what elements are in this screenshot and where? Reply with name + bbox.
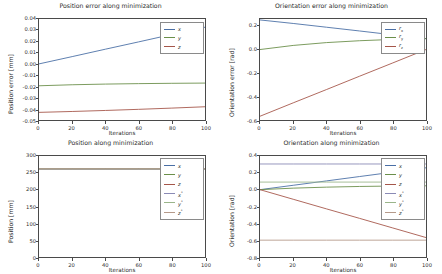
legend-item[interactable]: y — [385, 171, 421, 178]
legend-color-swatch — [385, 212, 396, 213]
x-tick-mark — [393, 258, 394, 261]
y-tick-mark — [36, 224, 39, 225]
y-tick-label: -0.05 — [23, 118, 36, 124]
legend-item[interactable]: y* — [164, 199, 200, 206]
legend-color-swatch — [385, 37, 396, 38]
y-tick-label: 0.04 — [24, 15, 36, 21]
legend-item[interactable]: x* — [385, 190, 421, 197]
y-tick-mark — [36, 52, 39, 53]
legend-item[interactable]: x — [164, 26, 200, 33]
y-tick-mark — [36, 189, 39, 190]
y-tick-label: 0.02 — [24, 38, 36, 44]
legend-label: y* — [178, 199, 183, 207]
legend-color-swatch — [385, 184, 396, 185]
legend-color-swatch — [385, 193, 396, 194]
x-tick-mark — [326, 121, 327, 124]
chart-title: Orientation error along minimization — [221, 2, 442, 10]
x-axis-label: Iterations — [259, 130, 427, 136]
legend-label: x — [178, 26, 181, 32]
legend-color-swatch — [385, 174, 396, 175]
x-tick-mark — [393, 121, 394, 124]
chart-title: Position along minimization — [0, 139, 221, 147]
y-tick-label: -0.2 — [247, 204, 257, 210]
x-axis-label: Iterations — [259, 267, 427, 273]
y-tick-label: 100 — [26, 221, 36, 227]
legend-label: ry — [399, 33, 403, 42]
legend-item[interactable]: y — [164, 171, 200, 178]
legend-item[interactable]: z* — [164, 209, 200, 216]
legend-color-swatch — [164, 202, 175, 203]
panel-orientation-error: Orientation error along minimization Ori… — [221, 2, 442, 137]
x-tick-mark — [139, 258, 140, 261]
x-tick-mark — [293, 258, 294, 261]
x-tick-mark — [259, 121, 260, 124]
y-tick-label: 200 — [26, 186, 36, 192]
y-tick-mark — [257, 189, 260, 190]
legend-label: x — [399, 163, 402, 169]
legend-color-swatch — [164, 46, 175, 47]
y-tick-label: -0.4 — [247, 94, 257, 100]
x-tick-mark — [38, 258, 39, 261]
y-tick-mark — [36, 18, 39, 19]
y-tick-label: -0.6 — [247, 118, 257, 124]
y-tick-container: 0.040.030.020.010.00-0.01-0.02-0.03-0.04… — [0, 18, 36, 121]
chart-legend[interactable]: xyzx*y*z* — [160, 158, 204, 220]
legend-item[interactable]: z — [164, 43, 200, 50]
y-tick-label: 50 — [29, 238, 36, 244]
y-tick-label: -0.8 — [247, 255, 257, 261]
y-tick-mark — [36, 110, 39, 111]
x-tick-mark — [139, 121, 140, 124]
x-tick-mark — [206, 258, 207, 261]
chart-title: Position error along minimization — [0, 2, 221, 10]
panel-position: Position along minimization Position [mm… — [0, 139, 221, 274]
x-tick-mark — [427, 258, 428, 261]
y-tick-label: -0.4 — [247, 221, 257, 227]
y-tick-label: 0.4 — [249, 152, 257, 158]
legend-label: y — [178, 35, 181, 41]
y-tick-label: 0.2 — [249, 169, 257, 175]
legend-item[interactable]: x* — [164, 190, 200, 197]
x-tick-mark — [360, 121, 361, 124]
legend-item[interactable]: rz — [385, 43, 421, 50]
legend-label: z — [178, 44, 181, 50]
x-tick-mark — [206, 121, 207, 124]
legend-label: y* — [399, 199, 404, 207]
y-tick-label: 150 — [26, 204, 36, 210]
y-tick-mark — [36, 98, 39, 99]
legend-item[interactable]: z — [164, 181, 200, 188]
legend-label: y — [178, 172, 181, 178]
legend-item[interactable]: rx — [385, 26, 421, 33]
legend-color-swatch — [164, 184, 175, 185]
chart-legend[interactable]: rxryrz — [381, 22, 425, 54]
chart-legend[interactable]: xyz — [160, 22, 204, 54]
legend-item[interactable]: ry — [385, 34, 421, 41]
y-tick-mark — [36, 172, 39, 173]
x-tick-mark — [293, 121, 294, 124]
y-tick-mark — [36, 75, 39, 76]
y-tick-mark — [36, 29, 39, 30]
y-tick-mark — [257, 224, 260, 225]
y-tick-mark — [36, 64, 39, 65]
x-tick-mark — [105, 121, 106, 124]
legend-color-swatch — [385, 202, 396, 203]
y-tick-mark — [257, 73, 260, 74]
legend-label: rx — [399, 25, 403, 34]
x-axis-label: Iterations — [38, 130, 206, 136]
x-axis-label: Iterations — [38, 267, 206, 273]
legend-item[interactable]: y — [164, 34, 200, 41]
y-tick-mark — [257, 155, 260, 156]
legend-color-swatch — [385, 165, 396, 166]
legend-item[interactable]: x — [164, 162, 200, 169]
legend-item[interactable]: x — [385, 162, 421, 169]
legend-label: rz — [399, 42, 403, 51]
legend-item[interactable]: y* — [385, 199, 421, 206]
x-tick-mark — [326, 258, 327, 261]
legend-color-swatch — [385, 29, 396, 30]
y-tick-container: 0.40.20.0-0.2-0.4-0.6-0.8 — [221, 155, 257, 258]
series-line — [39, 107, 205, 113]
y-tick-label: -0.03 — [23, 95, 36, 101]
legend-item[interactable]: z — [385, 181, 421, 188]
legend-item[interactable]: z* — [385, 209, 421, 216]
chart-legend[interactable]: xyzx*y*z* — [381, 158, 425, 220]
y-tick-label: 0.2 — [249, 22, 257, 28]
